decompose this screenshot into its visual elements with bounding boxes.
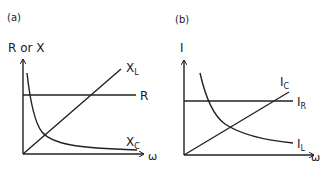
panel-a-x-axis-label: ω xyxy=(148,150,157,163)
panel-a-y-axis-label: R or X xyxy=(8,41,44,55)
curve-r-label: R xyxy=(140,89,148,103)
curve-xc-label: XC xyxy=(126,135,140,151)
panel-b-label: (b) xyxy=(175,14,189,25)
curve-xl-label: XL xyxy=(126,61,139,77)
panel-a-label: (a) xyxy=(7,12,21,23)
panel-a: (a) R or X ω R XL XC xyxy=(7,12,157,163)
panel-b-x-axis-label: ω xyxy=(311,151,320,164)
curve-ic-label: IC xyxy=(280,75,290,91)
curve-xc xyxy=(27,73,137,150)
curve-il-label: IL xyxy=(297,137,306,153)
curve-ir-label: IR xyxy=(297,95,307,111)
diagram-canvas: (a) R or X ω R XL XC (b) I ω IR IC IL xyxy=(0,0,323,169)
curve-xl xyxy=(23,69,121,154)
panel-b-y-axis-label: I xyxy=(180,41,184,55)
panel-b: (b) I ω IR IC IL xyxy=(175,14,320,164)
